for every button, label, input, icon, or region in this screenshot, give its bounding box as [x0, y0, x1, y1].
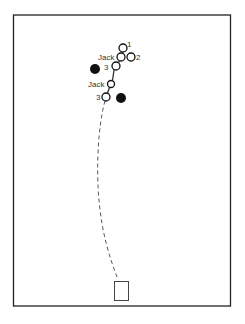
bowl-2-circle [127, 53, 135, 61]
label-bowl-3-lower: 3 [96, 93, 101, 102]
opponent-bowl-right [116, 93, 126, 103]
bowl-3-lower-circle [102, 93, 110, 101]
bowls-diagram: 1 2 Jack 3 Jack 3 [0, 0, 245, 324]
bowl-3-upper-circle [112, 62, 120, 70]
jack-upper-circle [117, 53, 125, 61]
label-bowl-2: 2 [136, 53, 141, 62]
mat-rectangle [115, 282, 129, 301]
label-jack-lower: Jack [88, 80, 105, 89]
label-bowl-1: 1 [127, 40, 132, 49]
bowl-1-circle [119, 44, 127, 52]
jack-lower-circle [108, 81, 115, 88]
jack-move-line-lower [108, 88, 110, 94]
jack-move-line-upper [113, 70, 115, 81]
delivery-path-dashed [98, 101, 117, 277]
label-bowl-3-upper: 3 [104, 63, 109, 72]
label-jack-upper: Jack [98, 53, 115, 62]
opponent-bowl-left [90, 64, 100, 74]
